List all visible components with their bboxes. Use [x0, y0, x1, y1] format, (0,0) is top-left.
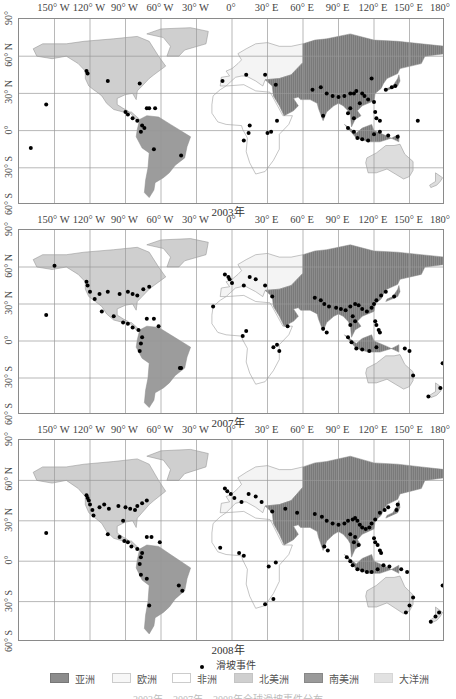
latitude-tick-label: 0° — [3, 336, 14, 345]
longitude-tick-label: 150° E — [394, 424, 423, 435]
landslide-event-point — [396, 503, 400, 507]
landslide-event-point — [357, 543, 361, 547]
legend-item-africa: 非洲 — [172, 672, 217, 684]
landslide-event-point — [140, 335, 144, 339]
latitude-tick-label: 90° — [3, 432, 14, 446]
landslide-event-point — [404, 610, 408, 614]
oceania-swatch-icon — [374, 673, 393, 683]
africa-swatch-icon — [172, 673, 191, 683]
landslide-event-point — [378, 130, 382, 134]
landslide-event-point — [393, 84, 397, 88]
landslide-event-point — [360, 307, 364, 311]
landslide-event-point — [342, 94, 346, 98]
landslide-event-point — [355, 567, 359, 571]
landslide-event-point — [370, 306, 374, 310]
latitude-tick-label: 90° — [3, 222, 14, 236]
latitude-tick-label: 30° N — [3, 291, 14, 315]
landslide-event-point — [139, 555, 143, 559]
latitude-axis-labels: 90°60° N30° N0°30° S60° S — [0, 229, 16, 414]
landslide-event-point — [346, 111, 350, 115]
landslide-event-point — [223, 272, 227, 276]
landslide-event-point — [326, 548, 330, 552]
landslide-event-point — [399, 567, 403, 571]
landslide-event-point — [248, 275, 252, 279]
latitude-tick-label: 60° N — [3, 254, 14, 278]
legend-label: 大洋洲 — [399, 671, 429, 686]
landslide-event-point — [112, 314, 116, 318]
landslide-event-point — [339, 307, 343, 311]
longitude-tick-label: 60° W — [146, 2, 173, 13]
landslide-event-point — [241, 334, 245, 338]
landslide-event-point — [129, 544, 133, 548]
landslide-event-point — [325, 330, 329, 334]
landslide-event-point — [247, 492, 251, 496]
landslide-event-point — [376, 543, 380, 547]
landslide-event-point — [138, 562, 142, 566]
landslide-event-point — [274, 83, 278, 87]
longitude-axis-labels: 150° W120° W90° W60° W30° W0°30° E60° E9… — [18, 2, 444, 16]
landslide-event-point — [147, 106, 151, 110]
landslide-event-point — [386, 505, 390, 509]
landslide-event-point — [426, 395, 430, 399]
landslide-event-point — [260, 500, 264, 504]
figure-caption: 2003年、2007年、2008年全球滑坡事件分布 — [0, 691, 456, 699]
year-label: 2008年 — [0, 641, 456, 657]
landslide-event-point — [141, 287, 145, 291]
longitude-axis-labels: 150° W120° W90° W60° W30° W0°30° E60° E9… — [18, 424, 444, 438]
legend-label: 亚洲 — [75, 671, 95, 686]
landslide-event-point — [138, 349, 142, 353]
landslide-event-point — [133, 508, 137, 512]
europe-swatch-icon — [112, 673, 131, 683]
landslide-event-point — [267, 565, 271, 569]
landslide-event-point — [93, 297, 97, 301]
landslide-event-point — [29, 146, 33, 150]
landslide-event-point — [180, 589, 184, 593]
longitude-tick-label: 180° — [430, 424, 450, 435]
landslide-event-point — [135, 547, 139, 551]
landslide-event-point — [158, 540, 162, 544]
landslide-event-point — [319, 298, 323, 302]
landslide-event-point — [85, 280, 89, 284]
landslide-event-point — [145, 317, 149, 321]
landslide-event-point — [438, 386, 442, 390]
landslide-event-point — [441, 361, 444, 365]
landslide-event-point — [107, 507, 111, 511]
landslide-event-point — [376, 567, 380, 571]
landslide-event-point — [275, 343, 279, 347]
longitude-tick-label: 90° E — [326, 2, 350, 13]
landslide-event-point — [350, 340, 354, 344]
landslide-event-point — [325, 91, 329, 95]
landslide-event-point — [346, 519, 350, 523]
longitude-tick-label: 60° E — [290, 424, 314, 435]
landslide-event-point — [441, 583, 444, 587]
landslide-event-point — [295, 511, 299, 515]
landslide-event-point — [374, 345, 378, 349]
landslide-event-point — [337, 95, 341, 99]
landslide-event-point — [126, 540, 130, 544]
continent-nz — [430, 173, 443, 188]
landslide-event-point — [86, 72, 90, 76]
landslide-event-point — [373, 319, 377, 323]
landslide-event-point — [313, 512, 317, 516]
longitude-tick-label: 30° W — [182, 214, 209, 225]
continent-nz — [430, 383, 443, 398]
landslide-event-point — [139, 130, 143, 134]
landslide-event-point — [88, 503, 92, 507]
landslide-event-point — [53, 264, 57, 268]
latitude-tick-label: 30° N — [3, 508, 14, 532]
landslide-event-point — [88, 290, 92, 294]
landslide-event-point — [145, 577, 149, 581]
landslide-event-point — [228, 277, 232, 281]
landslide-event-point — [351, 314, 355, 318]
legend-continents: 亚洲 欧洲 非洲 北美洲 南美洲 大洋洲 — [50, 672, 430, 684]
legend-label: 欧洲 — [137, 671, 157, 686]
continent-oceania — [366, 355, 413, 390]
landslide-event-point — [416, 119, 420, 123]
landslide-event-point — [348, 106, 352, 110]
landslide-event-point — [370, 570, 374, 574]
landslide-event-point — [346, 126, 350, 130]
landslide-event-point — [254, 495, 258, 499]
landslide-event-point — [271, 597, 275, 601]
landslide-event-point — [135, 119, 139, 123]
landslide-event-point — [319, 85, 323, 89]
